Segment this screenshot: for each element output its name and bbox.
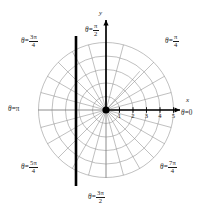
fraction-denominator: 2 xyxy=(93,31,98,38)
polar-spoke-135 xyxy=(58,62,106,110)
x-tick-label-1: 1 xyxy=(116,112,124,119)
y-axis-label: y xyxy=(99,9,102,17)
polar-spoke-225 xyxy=(58,110,106,158)
polar-spoke-255 xyxy=(89,110,106,175)
y-axis-arrowhead xyxy=(103,20,108,26)
angle-label-theta-3pi-over-2: θ= 3π 2 xyxy=(88,190,105,205)
polar-spoke-195 xyxy=(41,110,106,127)
fraction-denominator: 4 xyxy=(168,168,177,175)
x-tick-label-3: 3 xyxy=(143,112,151,119)
polar-spoke-285 xyxy=(106,110,123,175)
polar-spoke-105 xyxy=(89,45,106,110)
angle-label-theta-pi-over-4: θ= π 4 xyxy=(165,34,179,49)
angle-label-theta-pi-over-2: θ= π 2 xyxy=(85,23,99,38)
angle-value: π xyxy=(16,105,20,113)
x-tick-label-2: 2 xyxy=(129,112,137,119)
polar-spoke-30 xyxy=(106,76,164,110)
x-axis-label: x xyxy=(186,96,189,104)
polar-spoke-15 xyxy=(106,93,171,110)
angle-label-theta-5pi-over-4: θ= 5π 4 xyxy=(21,160,38,175)
angle-label-theta-0: θ=0 xyxy=(181,110,193,117)
angle-label-theta-7pi-over-4: θ= 7π 4 xyxy=(160,160,177,175)
fraction-denominator: 4 xyxy=(29,42,38,49)
polar-spoke-120 xyxy=(72,52,106,110)
fraction-denominator: 2 xyxy=(96,198,105,205)
origin-point xyxy=(102,106,109,113)
fraction-denominator: 4 xyxy=(173,42,178,49)
polar-grid-canvas xyxy=(0,0,212,212)
fraction-denominator: 4 xyxy=(29,168,38,175)
angle-value: 0 xyxy=(189,109,193,117)
x-tick-label-4: 4 xyxy=(156,112,164,119)
angle-label-theta-pi: θ=π xyxy=(8,106,20,113)
polar-coordinate-plot: 1 2 3 4 5 y x θ= π 2 θ= π 4 θ= 3π 4 θ=π … xyxy=(0,0,212,212)
angle-label-theta-3pi-over-4: θ= 3π 4 xyxy=(21,34,38,49)
x-tick-label-5: 5 xyxy=(170,112,178,119)
polar-spoke-165 xyxy=(41,93,106,110)
polar-spoke-45 xyxy=(106,62,154,110)
polar-spoke-240 xyxy=(72,110,106,168)
